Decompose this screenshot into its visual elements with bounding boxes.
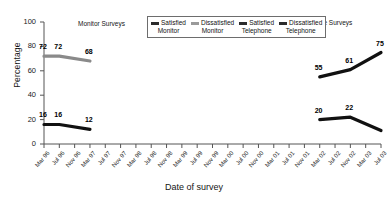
- legend-swatch-icon: [279, 22, 287, 25]
- data-value-label: 72: [54, 43, 62, 50]
- legend-label-line2: Telephone: [242, 27, 272, 35]
- data-value-label: 22: [345, 104, 353, 111]
- legend-item: DissatisfiedTelephone: [279, 19, 322, 35]
- legend-item: DissatisfiedMonitor: [191, 19, 234, 35]
- chart-legend: SatisfiedMonitorDissatisfiedMonitorSatis…: [147, 16, 326, 38]
- legend-label-line1: Dissatisfied: [201, 19, 234, 27]
- data-value-label: 72: [39, 43, 47, 50]
- y-tick-label: 60: [10, 66, 36, 75]
- legend-label-line2: Telephone: [286, 27, 316, 35]
- legend-label-line1: Dissatisfied: [289, 19, 322, 27]
- data-value-label: 68: [85, 48, 93, 55]
- legend-item: SatisfiedTelephone: [239, 19, 274, 35]
- y-tick-label: 40: [10, 90, 36, 99]
- legend-swatch-icon: [239, 22, 247, 25]
- data-value-label: 12: [85, 116, 93, 123]
- legend-label-line1: Satisfied: [249, 19, 274, 27]
- data-value-label: 20: [315, 107, 323, 114]
- data-value-label: 16: [39, 111, 47, 118]
- y-tick-label: 100: [10, 17, 36, 26]
- legend-label-line1: Satisfied: [161, 19, 186, 27]
- legend-item: SatisfiedMonitor: [151, 19, 186, 35]
- survey-satisfaction-chart: Percentage Date of survey 020406080100 M…: [0, 0, 388, 202]
- legend-swatch-icon: [191, 22, 199, 25]
- legend-label-line2: Monitor: [202, 27, 224, 35]
- legend-label-line2: Monitor: [158, 27, 180, 35]
- data-value-label: 75: [376, 40, 384, 47]
- legend-swatch-icon: [151, 22, 159, 25]
- data-value-label: 61: [345, 57, 353, 64]
- data-value-label: 55: [315, 64, 323, 71]
- y-tick-label: 0: [10, 139, 36, 148]
- section-annotation: Monitor Surveys: [78, 20, 125, 27]
- y-tick-label: 20: [10, 115, 36, 124]
- data-value-label: 16: [54, 111, 62, 118]
- y-tick-label: 80: [10, 41, 36, 50]
